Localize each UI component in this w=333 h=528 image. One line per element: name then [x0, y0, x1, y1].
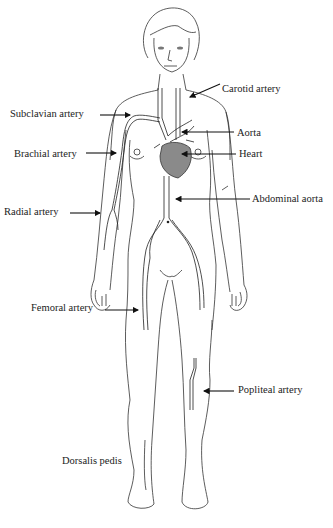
popliteal-artery-shape	[190, 358, 196, 410]
heart-shape	[160, 142, 191, 178]
carotid-artery-shape	[158, 88, 180, 140]
subclavian-brachial-radial-artery-shape	[104, 115, 160, 250]
label-abdominal-aorta: Abdominal aorta	[252, 193, 323, 205]
label-radial-artery: Radial artery	[4, 206, 59, 218]
label-dorsalis-pedis: Dorsalis pedis	[62, 455, 122, 467]
label-arrows	[70, 84, 250, 391]
label-carotid-artery: Carotid artery	[222, 83, 281, 95]
label-subclavian-artery: Subclavian artery	[10, 108, 84, 120]
legs-outline	[125, 280, 212, 509]
label-brachial-artery: Brachial artery	[14, 148, 77, 160]
head-outline	[143, 8, 199, 72]
left-arm-outline	[91, 110, 126, 310]
label-popliteal-artery: Popliteal artery	[238, 384, 302, 396]
torso-outline	[110, 74, 230, 330]
label-aorta: Aorta	[237, 127, 261, 139]
label-femoral-artery: Femoral artery	[31, 302, 93, 314]
arterial-system-diagram	[0, 0, 333, 528]
label-heart: Heart	[239, 148, 262, 160]
